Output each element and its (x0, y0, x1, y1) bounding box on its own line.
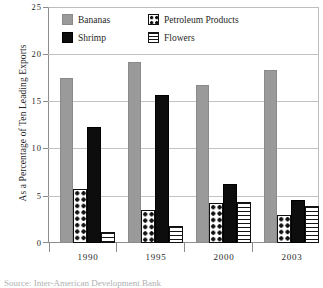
x-tickmark-2000 (184, 243, 185, 252)
legend-label-shrimp: Shrimp (78, 33, 106, 43)
y-tick-label: 20 (20, 49, 42, 59)
bar-shrimp-2003 (291, 200, 305, 243)
bar-bananas-1990 (60, 78, 73, 243)
bar-petroleum-1995 (141, 210, 155, 243)
y-tick-label: 5 (20, 191, 42, 201)
bar-shrimp-1990 (87, 127, 101, 243)
bar-flowers-1995 (169, 226, 183, 243)
legend-item-shrimp: Shrimp (62, 32, 106, 43)
legend-label-flowers: Flowers (164, 33, 195, 43)
legend-item-bananas: Bananas (62, 14, 110, 25)
chart-legend: Bananas Petroleum Products Shrimp Flower… (62, 14, 272, 50)
shrimp-swatch-icon (62, 32, 73, 43)
legend-label-bananas: Bananas (78, 15, 110, 25)
bar-shrimp-2000 (223, 184, 237, 243)
x-tick-label-1995: 1995 (126, 252, 186, 262)
x-tickmark-2003 (252, 243, 253, 252)
legend-label-petroleum-products: Petroleum Products (164, 15, 239, 25)
bar-flowers-1990 (101, 232, 115, 243)
y-tick-label: 15 (20, 96, 42, 106)
figure-caption: Source: Inter-American Development Bank (4, 278, 323, 288)
legend-item-petroleum-products: Petroleum Products (148, 14, 239, 25)
flowers-swatch-icon (148, 32, 159, 43)
bar-shrimp-1995 (155, 95, 169, 243)
x-tick-label-1990: 1990 (58, 252, 118, 262)
legend-item-flowers: Flowers (148, 32, 195, 43)
x-tickmark-1990 (49, 243, 50, 252)
bar-bananas-2003 (264, 70, 277, 243)
x-axis-tick-labels: 1990 1995 2000 2003 (48, 252, 319, 268)
bar-flowers-2000 (237, 202, 251, 243)
x-tick-label-2000: 2000 (194, 252, 254, 262)
y-tick-label: 10 (20, 143, 42, 153)
petroleum-swatch-icon (148, 14, 159, 25)
x-tick-label-2003: 2003 (262, 252, 322, 262)
bar-bananas-2000 (196, 85, 209, 243)
bananas-swatch-icon (62, 14, 73, 25)
y-tick-label: 0 (20, 238, 42, 248)
bar-petroleum-2000 (209, 203, 223, 243)
bar-flowers-2003 (305, 206, 319, 243)
bar-petroleum-2003 (277, 215, 291, 243)
x-tickmark-1995 (116, 243, 117, 252)
bar-group-2003 (264, 7, 320, 243)
y-axis-tick-labels: 25 20 15 10 5 0 (16, 0, 42, 286)
y-tick-label: 25 (20, 2, 42, 12)
bar-bananas-1995 (128, 62, 141, 243)
bar-petroleum-1990 (73, 189, 87, 243)
